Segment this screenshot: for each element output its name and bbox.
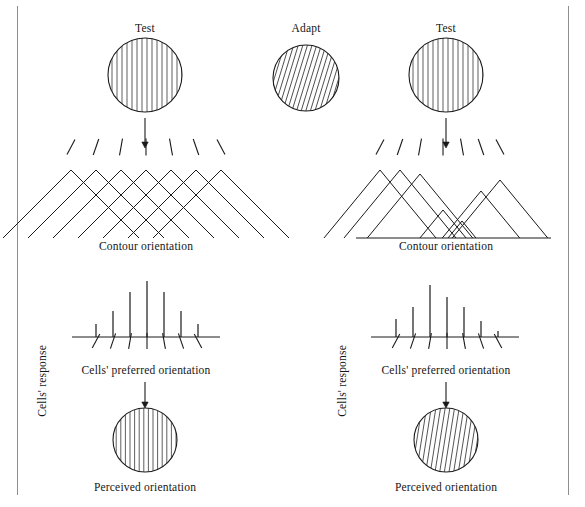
grating-stripes-test-left bbox=[102, 28, 187, 122]
grating-stripes-adapt bbox=[256, 25, 353, 129]
tuning-curve-0 bbox=[3, 170, 139, 238]
tuning-curve-1 bbox=[344, 170, 456, 238]
orientation-tick-4 bbox=[170, 139, 173, 156]
label-cells-response-right: Cells' response bbox=[336, 345, 348, 417]
grating-outline-perceived-left bbox=[113, 408, 177, 472]
label-test-right: Test bbox=[436, 22, 456, 34]
grating-stripes-perceived-right bbox=[402, 393, 488, 487]
orientation-tick-4 bbox=[461, 139, 464, 156]
grating-outline-adapt bbox=[273, 45, 339, 111]
orientation-tick-0 bbox=[376, 139, 384, 154]
chart-response-histogram-unadapted bbox=[72, 281, 220, 349]
chart-tuning-curves-adapted bbox=[324, 139, 551, 239]
label-adapt: Adapt bbox=[291, 22, 320, 34]
label-perceived-orientation-right: Perceived orientation bbox=[395, 481, 497, 493]
grating-stripes-perceived-left bbox=[107, 398, 181, 482]
tuning-curve-6 bbox=[153, 170, 289, 238]
arrowhead bbox=[142, 402, 148, 408]
tuning-curve-4 bbox=[448, 221, 476, 238]
orientation-tick-5 bbox=[478, 139, 484, 155]
label-cells-preferred-orientation-left: Cells' preferred orientation bbox=[81, 364, 210, 376]
orientation-tick-1 bbox=[93, 139, 99, 155]
orientation-tick-2 bbox=[120, 139, 123, 156]
grating-adapt bbox=[256, 25, 353, 129]
arrow-response-right-to-percept bbox=[443, 382, 449, 408]
arrow-test-left-to-tuning bbox=[142, 118, 148, 148]
orientation-tick-0 bbox=[67, 139, 75, 154]
arrow-test-right-to-tuning bbox=[443, 118, 449, 148]
label-contour-orientation-right: Contour orientation bbox=[399, 240, 493, 252]
orientation-tick-1 bbox=[397, 139, 403, 155]
chart-tuning-curves-unadapted bbox=[3, 139, 289, 239]
grating-outline-test-right bbox=[409, 38, 483, 112]
orientation-tick-6 bbox=[496, 139, 504, 154]
tuning-curve-0 bbox=[324, 170, 436, 238]
tuning-curve-3 bbox=[78, 170, 214, 238]
tuning-curve-4 bbox=[103, 170, 239, 238]
label-test-left: Test bbox=[135, 22, 155, 34]
chart-response-histogram-adapted bbox=[371, 285, 519, 349]
grating-perceived-right bbox=[402, 393, 488, 487]
tuning-curve-2 bbox=[367, 174, 472, 238]
orientation-tick-5 bbox=[193, 139, 199, 155]
figure-artwork bbox=[0, 0, 585, 507]
tuning-curve-2 bbox=[53, 170, 189, 238]
orientation-tick-6 bbox=[217, 139, 225, 154]
arrow-response-left-to-percept bbox=[142, 382, 148, 408]
orientation-tick-2 bbox=[419, 139, 422, 156]
grating-outline-test-left bbox=[108, 38, 182, 112]
arrowhead bbox=[443, 142, 449, 148]
label-contour-orientation-left: Contour orientation bbox=[99, 240, 193, 252]
tilt-aftereffect-figure: Test Adapt Test Contour orientation Cont… bbox=[0, 0, 585, 507]
grating-test-right bbox=[403, 28, 488, 122]
grating-perceived-left bbox=[107, 398, 181, 482]
arrowhead bbox=[142, 142, 148, 148]
label-cells-preferred-orientation-right: Cells' preferred orientation bbox=[381, 364, 510, 376]
grating-stripes-test-right bbox=[403, 28, 488, 122]
tuning-curve-5 bbox=[128, 170, 264, 238]
label-perceived-orientation-left: Perceived orientation bbox=[94, 481, 196, 493]
tuning-curve-1 bbox=[28, 170, 164, 238]
grating-test-left bbox=[102, 28, 187, 122]
arrowhead bbox=[443, 402, 449, 408]
label-cells-response-left: Cells' response bbox=[36, 345, 48, 417]
